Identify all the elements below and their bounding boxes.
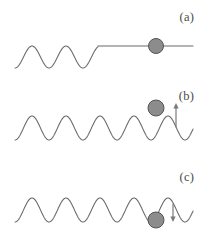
panel-b-illustration (0, 82, 208, 164)
wave-ball-figure: (a) (b) (c) (0, 0, 208, 245)
panel-c-label: (c) (180, 171, 194, 184)
panel-b-label: (b) (179, 90, 194, 103)
panel-a: (a) (0, 0, 208, 82)
panel-b: (b) (0, 82, 208, 164)
panel-c: (c) (0, 164, 208, 245)
panel-a-illustration (0, 0, 208, 82)
panel-c-illustration (0, 164, 208, 245)
panel-a-label: (a) (180, 11, 194, 24)
